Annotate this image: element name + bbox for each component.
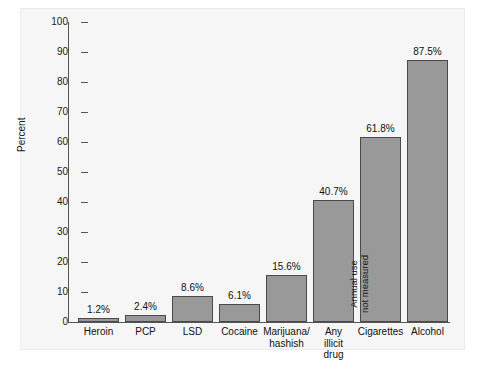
bar-group: 1.2% [75, 318, 122, 322]
plot-area: 0102030405060708090100 Percent 1.2%Heroi… [0, 0, 486, 378]
y-axis-tick-label: 40 [36, 197, 68, 207]
y-axis-ticks: 0102030405060708090100 [20, 0, 68, 378]
y-axis-line [68, 22, 69, 323]
bar[interactable] [78, 318, 119, 322]
y-axis-tick [81, 82, 88, 83]
bar-group: 2.4% [122, 315, 169, 322]
bar-group: 6.1% [216, 304, 263, 322]
y-axis-tick [81, 112, 88, 113]
y-axis-tick-label: 30 [36, 227, 68, 237]
y-axis-tick-label: 70 [36, 107, 68, 117]
bar[interactable] [172, 296, 213, 322]
y-axis-tick-label: 0 [36, 317, 68, 327]
bar-value-label: 61.8% [351, 123, 410, 134]
y-axis-tick [81, 262, 88, 263]
bar-value-label: 87.5% [398, 46, 457, 57]
y-axis-tick-label: 80 [36, 77, 68, 87]
bar-chart-figure: 0102030405060708090100 Percent 1.2%Heroi… [0, 0, 486, 378]
bar-value-label: 40.7% [304, 186, 363, 197]
y-axis-tick [81, 52, 88, 53]
y-axis-tick [81, 22, 88, 23]
y-axis-tick-label: 100 [36, 17, 68, 27]
bar-group: 8.6% [169, 296, 216, 322]
bar[interactable]: Annual usenot measured [360, 137, 401, 322]
y-axis-tick-label: 20 [36, 257, 68, 267]
bar-group: 87.5% [404, 60, 451, 323]
y-axis-tick [81, 322, 88, 323]
bar[interactable] [219, 304, 260, 322]
x-axis-baseline [68, 322, 450, 323]
bar-group: Annual usenot measured61.8% [357, 137, 404, 322]
y-axis-tick [81, 142, 88, 143]
bar[interactable] [407, 60, 448, 323]
bar-inner-annotation: Annual usenot measured [348, 255, 370, 313]
y-axis-tick-label: 10 [36, 287, 68, 297]
y-axis-tick-label: 60 [36, 137, 68, 147]
y-axis-tick [81, 232, 88, 233]
bar-value-label: 2.4% [116, 301, 175, 312]
y-axis-tick [81, 172, 88, 173]
y-axis-label: Percent [16, 118, 27, 152]
y-axis-tick [81, 202, 88, 203]
bar[interactable] [125, 315, 166, 322]
y-axis-tick-label: 90 [36, 47, 68, 57]
y-axis-tick-label: 50 [36, 167, 68, 177]
x-axis-category-label: Alcohol [398, 326, 457, 338]
bar-value-label: 15.6% [257, 261, 316, 272]
bar[interactable] [266, 275, 307, 322]
bar-group: 15.6% [263, 275, 310, 322]
bar-value-label: 6.1% [210, 290, 269, 301]
y-axis-tick [81, 292, 88, 293]
